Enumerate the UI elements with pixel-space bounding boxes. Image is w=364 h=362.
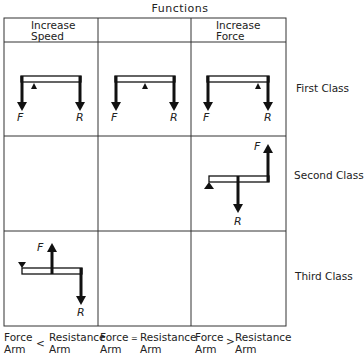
row-label-first-class: First Class xyxy=(296,82,349,94)
second-class-lever xyxy=(209,150,269,208)
resistance-label: R xyxy=(76,111,84,124)
force-label: F xyxy=(111,111,117,124)
force-label: F xyxy=(254,140,260,153)
footer-text: Resistance xyxy=(235,331,292,343)
fulcrum-icon xyxy=(18,262,26,268)
footer-text: Arm xyxy=(235,343,292,355)
column-header-increase-speed: Increase Speed xyxy=(31,20,75,42)
header-line2: Force xyxy=(216,31,260,42)
fulcrum-icon xyxy=(31,83,37,89)
first-class-equal-arrows xyxy=(111,83,179,111)
footer-force-arm: Force Arm xyxy=(100,331,128,355)
third-class-lever xyxy=(22,249,82,300)
resistance-label: R xyxy=(234,215,242,228)
footer-force-arm: Force Arm xyxy=(4,331,32,355)
footer-symbol-less: < xyxy=(36,337,45,349)
resistance-label: R xyxy=(264,111,272,124)
resistance-label: R xyxy=(170,111,178,124)
footer-symbol-greater: > xyxy=(226,335,235,347)
first-class-equal-lever xyxy=(115,76,175,106)
footer-resistance-arm: Resistance Arm xyxy=(235,331,292,355)
first-class-force-lever xyxy=(207,76,269,106)
footer-text: Arm xyxy=(195,343,223,355)
footer-text: Arm xyxy=(100,343,128,355)
footer-resistance-arm: Resistance Arm xyxy=(49,331,106,355)
force-label: F xyxy=(203,111,209,124)
footer-text: Arm xyxy=(4,343,32,355)
footer-text: Resistance xyxy=(49,331,106,343)
first-class-speed-arrows xyxy=(17,83,85,111)
fulcrum-icon xyxy=(204,182,214,189)
footer-text: Arm xyxy=(49,343,106,355)
force-label: F xyxy=(37,241,43,254)
footer-force-arm: Force Arm xyxy=(195,331,223,355)
footer-text: Force xyxy=(100,331,128,343)
footer-text: Arm xyxy=(140,343,197,355)
footer-text: Force xyxy=(4,331,32,343)
first-class-force-arrows xyxy=(203,83,273,111)
grid-lines xyxy=(4,18,286,326)
header-line2: Speed xyxy=(31,31,75,42)
resistance-label: R xyxy=(77,306,85,319)
fulcrum-icon xyxy=(255,83,261,89)
footer-text: Force xyxy=(195,331,223,343)
row-label-third-class: Third Class xyxy=(295,270,353,282)
footer-symbol-equal: = xyxy=(131,333,138,345)
row-label-second-class: Second Class xyxy=(294,169,364,181)
footer-text: Resistance xyxy=(140,331,197,343)
first-class-speed-lever xyxy=(21,76,81,106)
fulcrum-icon xyxy=(142,83,148,89)
force-label: F xyxy=(17,111,23,124)
column-header-increase-force: Increase Force xyxy=(216,20,260,42)
footer-resistance-arm: Resistance Arm xyxy=(140,331,197,355)
